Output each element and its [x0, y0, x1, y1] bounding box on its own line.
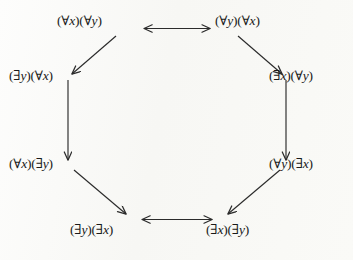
edge-lower-right [228, 170, 280, 214]
node-label-left-lower: (∀x)(∃y) [9, 157, 53, 171]
node-label-right-lower: (∀y)(∃x) [269, 157, 313, 171]
node-label-top-right: (∀y)(∀x) [215, 14, 260, 28]
node-label-left-upper: (∃y)(∀x) [9, 69, 53, 83]
node-label-bottom-left: (∃y)(∃x) [70, 223, 113, 237]
edge-lower-left [74, 170, 126, 214]
node-label-right-upper: (∃x)(∀y) [269, 69, 313, 83]
figure-canvas: (∀x)(∀y) (∀y)(∀x) (∃y)(∀x) (∃x)(∀y) (∀x)… [0, 0, 353, 260]
node-label-bottom-right: (∃x)(∃y) [206, 223, 249, 237]
edge-upper-left [72, 36, 116, 74]
octagon-diagram [0, 0, 353, 260]
node-label-top-left: (∀x)(∀y) [57, 14, 102, 28]
